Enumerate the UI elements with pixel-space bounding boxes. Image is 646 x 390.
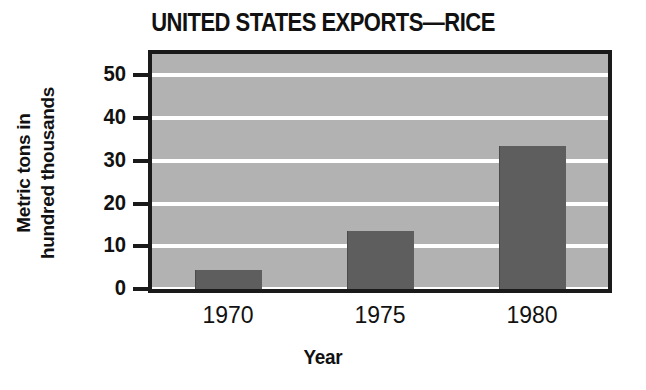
y-axis-title: Metric tons in hundred thousands <box>6 48 66 298</box>
x-tick-label-1975: 1975 <box>325 302 435 329</box>
y-tick <box>133 73 148 77</box>
y-tick <box>133 159 148 163</box>
y-tick-label: 0 <box>86 277 126 299</box>
y-tick <box>133 244 148 248</box>
x-tick-label-1970: 1970 <box>173 302 283 329</box>
y-tick-label: 30 <box>86 149 126 171</box>
plot-area <box>148 50 612 293</box>
x-axis-title: Year <box>32 345 613 369</box>
bar-1975 <box>347 231 414 289</box>
y-tick <box>133 116 148 120</box>
bar-1980 <box>499 146 566 289</box>
y-axis-title-line-2: hundred thousands <box>37 87 59 259</box>
y-tick-label: 20 <box>86 192 126 214</box>
y-tick <box>133 202 148 206</box>
y-tick-label: 40 <box>86 106 126 128</box>
chart-figure: UNITED STATES EXPORTS—RICE Metric tons i… <box>0 0 646 390</box>
chart-title: UNITED STATES EXPORTS—RICE <box>39 8 607 37</box>
x-tick-label-1980: 1980 <box>477 302 587 329</box>
y-axis-title-line-1: Metric tons in <box>13 113 35 232</box>
y-tick <box>133 287 148 291</box>
y-tick-label: 10 <box>86 234 126 256</box>
y-tick-label: 50 <box>86 63 126 85</box>
gridline <box>152 116 608 120</box>
bar-1970 <box>195 270 262 289</box>
gridline <box>152 73 608 77</box>
plot-inner <box>152 54 608 289</box>
